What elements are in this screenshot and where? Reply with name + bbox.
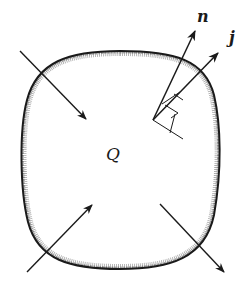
vector-label-j: j bbox=[229, 30, 235, 46]
inflow-arrow-bottom-left bbox=[27, 205, 92, 272]
flux-region-diagram bbox=[0, 0, 241, 290]
region-label-q: Q bbox=[106, 146, 120, 163]
vector-label-n: n bbox=[197, 9, 209, 25]
normal-vector-n bbox=[153, 31, 195, 120]
